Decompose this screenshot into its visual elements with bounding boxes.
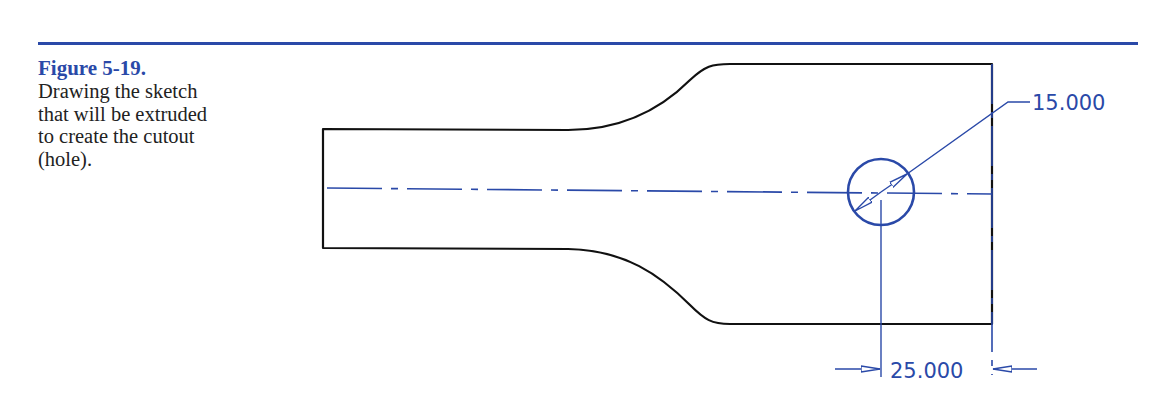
- diameter-dimension-text: 15.000: [1032, 91, 1105, 115]
- horizontal-dimension-text: 25.000: [890, 359, 963, 383]
- centerline-horizontal: [327, 188, 992, 194]
- diameter-arrow-inner-2: [855, 192, 881, 211]
- diameter-leader: [907, 102, 1030, 174]
- technical-drawing: 15.000 25.000: [0, 0, 1156, 407]
- diameter-arrow-inner: [881, 174, 907, 192]
- part-outline: [323, 64, 992, 324]
